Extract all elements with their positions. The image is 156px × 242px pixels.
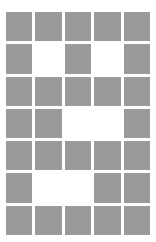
grid-cell	[65, 12, 91, 41]
grid-cell	[6, 12, 32, 41]
grid-cell	[35, 173, 61, 202]
grid-cell	[65, 77, 91, 106]
grid-cell	[65, 206, 91, 235]
grid-cell	[94, 12, 120, 41]
grid-cell	[65, 173, 91, 202]
grid-cell	[124, 12, 150, 41]
grid-cell	[124, 141, 150, 170]
grid-cell	[35, 77, 61, 106]
cell-grid	[6, 12, 150, 235]
grid-cell	[35, 206, 61, 235]
grid-cell	[6, 44, 32, 73]
grid-cell	[6, 173, 32, 202]
grid-cell	[94, 109, 120, 138]
grid-cell	[124, 173, 150, 202]
grid-pattern-panel	[0, 0, 156, 242]
grid-cell	[6, 206, 32, 235]
grid-cell	[94, 206, 120, 235]
grid-cell	[35, 12, 61, 41]
grid-cell	[94, 173, 120, 202]
grid-cell	[65, 44, 91, 73]
grid-cell	[94, 77, 120, 106]
grid-cell	[6, 109, 32, 138]
grid-cell	[35, 44, 61, 73]
grid-cell	[6, 141, 32, 170]
grid-cell	[6, 77, 32, 106]
grid-cell	[35, 109, 61, 138]
grid-cell	[35, 141, 61, 170]
grid-cell	[124, 109, 150, 138]
grid-cell	[124, 44, 150, 73]
grid-cell	[94, 141, 120, 170]
grid-cell	[65, 141, 91, 170]
grid-cell	[124, 206, 150, 235]
grid-cell	[124, 77, 150, 106]
grid-cell	[65, 109, 91, 138]
grid-cell	[94, 44, 120, 73]
